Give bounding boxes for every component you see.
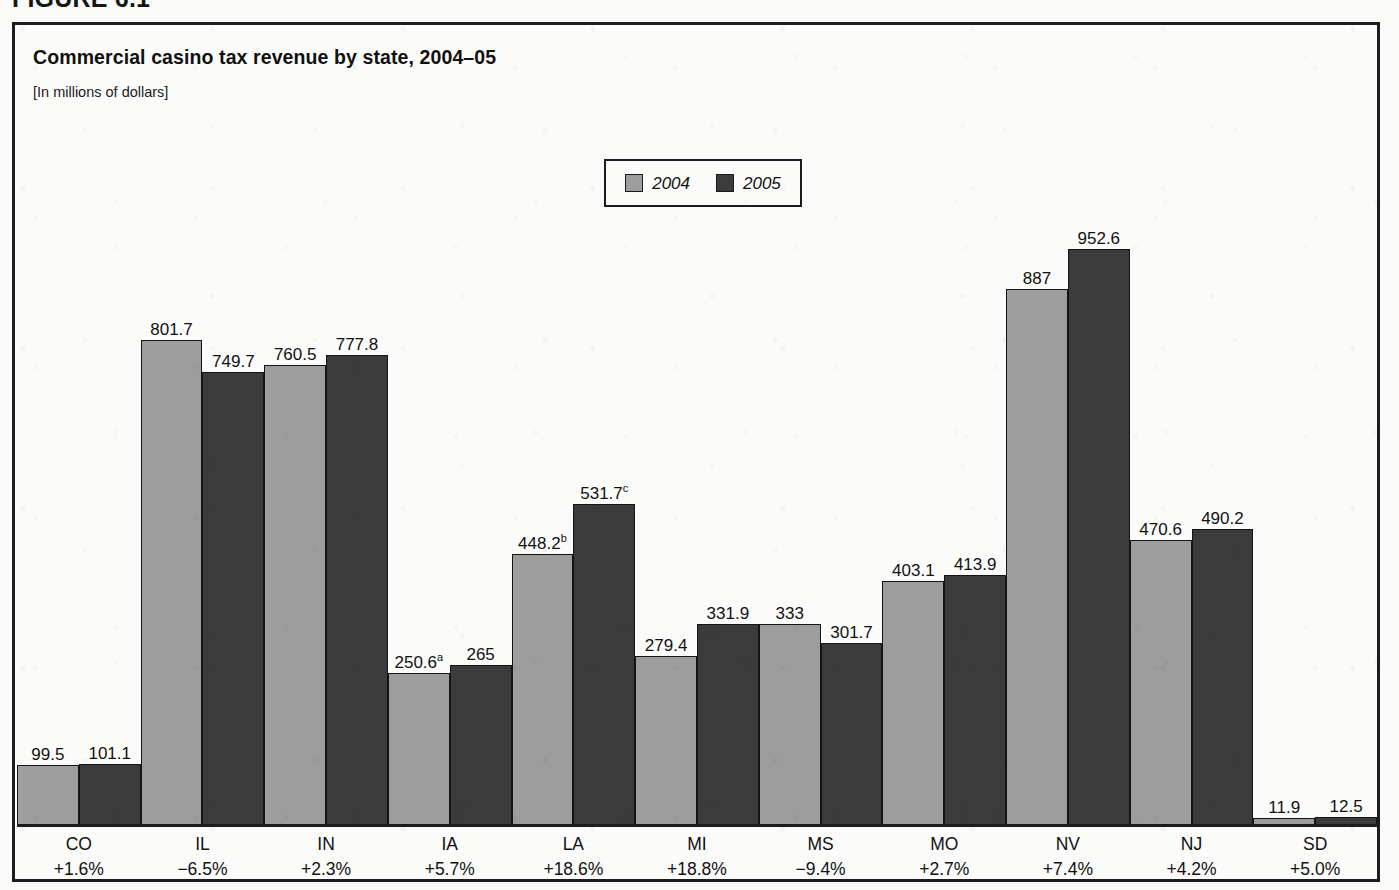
x-tick-state-abbr: IL (141, 832, 265, 857)
bar-pair: 403.1413.9 (882, 575, 1006, 825)
x-tick-percent-change: −9.4% (759, 857, 883, 882)
bar-la-2004[interactable]: 448.2b (512, 554, 574, 825)
bar-pair: 333301.7 (759, 624, 883, 825)
bar-mi-2004[interactable]: 279.4 (635, 656, 697, 825)
bar-group-in: 760.5777.8 (264, 25, 388, 825)
x-tick-percent-change: +4.2% (1130, 857, 1254, 882)
footnote-marker-c: c (623, 482, 629, 494)
bar-value-label-ms-2004: 333 (776, 605, 804, 622)
chart-legend: 2004 2005 (604, 159, 802, 207)
bar-pair: 448.2b531.7c (512, 504, 636, 825)
bar-il-2004[interactable]: 801.7 (141, 340, 203, 825)
x-tick-ms: MS−9.4% (759, 832, 883, 882)
bar-value-label-co-2004: 99.5 (31, 746, 64, 763)
bar-ms-2004[interactable]: 333 (759, 624, 821, 825)
bar-mo-2005[interactable]: 413.9 (944, 575, 1006, 825)
bar-in-2005[interactable]: 777.8 (326, 355, 388, 825)
bar-value-label-il-2005: 749.7 (212, 353, 255, 370)
bar-value-label-ia-2004: 250.6a (394, 654, 443, 671)
bar-pair: 887952.6 (1006, 249, 1130, 825)
bar-il-2005[interactable]: 749.7 (202, 372, 264, 825)
figure-number-label: FIGURE 6.1 (12, 0, 150, 13)
bar-group-mo: 403.1413.9 (882, 25, 1006, 825)
bar-co-2004[interactable]: 99.5 (17, 765, 79, 825)
footnote-marker-a: a (437, 652, 443, 664)
x-tick-state-abbr: MS (759, 832, 883, 857)
x-tick-percent-change: +2.7% (882, 857, 1006, 882)
bar-value-label-il-2004: 801.7 (150, 321, 193, 338)
bar-co-2005[interactable]: 101.1 (79, 764, 141, 825)
bar-mo-2004[interactable]: 403.1 (882, 581, 944, 825)
figure-page: FIGURE 6.1 Commercial casino tax revenue… (0, 0, 1399, 890)
bar-pair: 801.7749.7 (141, 340, 265, 825)
footnote-marker-b: b (561, 532, 567, 544)
bar-value-label-ia-2005: 265 (466, 646, 494, 663)
bar-value-label-mo-2005: 413.9 (954, 556, 997, 573)
x-tick-state-abbr: NJ (1130, 832, 1254, 857)
x-tick-percent-change: +18.8% (635, 857, 759, 882)
bar-nv-2004[interactable]: 887 (1006, 289, 1068, 825)
bar-pair: 470.6490.2 (1130, 529, 1254, 825)
bar-value-label-mo-2004: 403.1 (892, 562, 935, 579)
bar-ms-2005[interactable]: 301.7 (821, 643, 883, 825)
x-tick-ia: IA+5.7% (388, 832, 512, 882)
bar-mi-2005[interactable]: 331.9 (697, 624, 759, 825)
bar-pair: 760.5777.8 (264, 355, 388, 825)
bar-group-nj: 470.6490.2 (1130, 25, 1254, 825)
chart-title: Commercial casino tax revenue by state, … (33, 46, 496, 69)
bar-group-nv: 887952.6 (1006, 25, 1130, 825)
x-tick-state-abbr: NV (1006, 832, 1130, 857)
x-tick-state-abbr: MO (882, 832, 1006, 857)
x-tick-co: CO+1.6% (17, 832, 141, 882)
bar-value-label-sd-2004: 11.9 (1268, 799, 1300, 816)
bar-in-2004[interactable]: 760.5 (264, 365, 326, 825)
x-tick-sd: SD+5.0% (1253, 832, 1377, 882)
bar-la-2005[interactable]: 531.7c (573, 504, 635, 825)
bar-value-label-nv-2005: 952.6 (1078, 230, 1121, 247)
bar-group-mi: 279.4331.9 (635, 25, 759, 825)
legend-swatch-2005-icon (716, 174, 734, 192)
x-tick-nv: NV+7.4% (1006, 832, 1130, 882)
x-tick-il: IL−6.5% (141, 832, 265, 882)
legend-label-2004: 2004 (652, 175, 690, 192)
x-tick-percent-change: +1.6% (17, 857, 141, 882)
bar-value-label-co-2005: 101.1 (88, 745, 131, 762)
x-tick-percent-change: +7.4% (1006, 857, 1130, 882)
x-tick-percent-change: +5.0% (1253, 857, 1377, 882)
legend-entry-2004: 2004 (625, 174, 690, 192)
legend-entry-2005: 2005 (716, 174, 781, 192)
bar-nj-2005[interactable]: 490.2 (1192, 529, 1254, 825)
x-tick-percent-change: +18.6% (512, 857, 636, 882)
x-tick-state-abbr: IA (388, 832, 512, 857)
x-tick-state-abbr: MI (635, 832, 759, 857)
bar-group-il: 801.7749.7 (141, 25, 265, 825)
bar-value-label-mi-2004: 279.4 (645, 637, 688, 654)
x-tick-state-abbr: LA (512, 832, 636, 857)
bar-value-label-ms-2005: 301.7 (830, 624, 873, 641)
x-tick-nj: NJ+4.2% (1130, 832, 1254, 882)
bar-pair: 279.4331.9 (635, 624, 759, 825)
x-tick-in: IN+2.3% (264, 832, 388, 882)
bar-ia-2005[interactable]: 265 (450, 665, 512, 825)
bar-group-sd: 11.912.5 (1253, 25, 1377, 825)
bar-value-label-nv-2004: 887 (1023, 270, 1051, 287)
bar-group-ms: 333301.7 (759, 25, 883, 825)
bar-group-la: 448.2b531.7c (512, 25, 636, 825)
bar-value-label-in-2004: 760.5 (274, 346, 317, 363)
bar-value-label-nj-2005: 490.2 (1201, 510, 1244, 527)
bar-group-co: 99.5101.1 (17, 25, 141, 825)
bar-pair: 99.5101.1 (17, 764, 141, 825)
x-tick-state-abbr: CO (17, 832, 141, 857)
bar-value-label-in-2005: 777.8 (336, 336, 379, 353)
bar-ia-2004[interactable]: 250.6a (388, 673, 450, 825)
x-axis-baseline (17, 824, 1377, 827)
x-tick-percent-change: +2.3% (264, 857, 388, 882)
x-tick-percent-change: −6.5% (141, 857, 265, 882)
bar-nj-2004[interactable]: 470.6 (1130, 540, 1192, 825)
x-tick-percent-change: +5.7% (388, 857, 512, 882)
x-tick-mi: MI+18.8% (635, 832, 759, 882)
bar-value-label-la-2004: 448.2b (518, 535, 567, 552)
chart-subtitle-units: [In millions of dollars] (33, 84, 168, 100)
chart-plot-area: 99.5101.1801.7749.7760.5777.8250.6a26544… (17, 25, 1377, 825)
bar-nv-2005[interactable]: 952.6 (1068, 249, 1130, 825)
